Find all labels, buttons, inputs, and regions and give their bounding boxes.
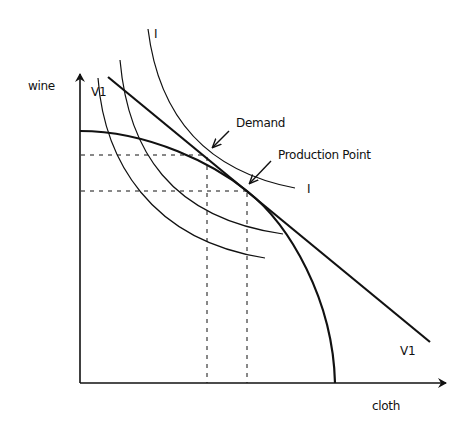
demand-label: Demand xyxy=(236,117,285,129)
indifference-label-right: I xyxy=(307,183,310,195)
indifference-label-top: I xyxy=(154,28,157,40)
indifference-curve-inner xyxy=(98,78,265,258)
indifference-curve-outer xyxy=(148,29,295,188)
x-axis-label: cloth xyxy=(372,400,400,412)
y-axis-label: wine xyxy=(28,80,55,92)
demand-arrow xyxy=(213,131,229,147)
production-point-arrow xyxy=(250,161,271,183)
price-line-label-top: V1 xyxy=(91,86,106,98)
indifference-curve-middle xyxy=(120,60,283,234)
production-point-label: Production Point xyxy=(278,149,371,161)
price-line-label-bottom: V1 xyxy=(400,345,415,357)
guide-lines xyxy=(81,155,247,383)
ppf-diagram xyxy=(0,0,473,428)
